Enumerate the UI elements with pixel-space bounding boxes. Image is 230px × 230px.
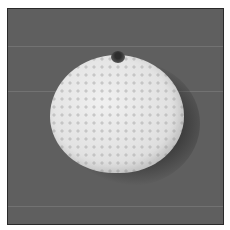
photo-frame	[7, 8, 224, 225]
object-notch	[111, 51, 125, 63]
textured-round-object	[50, 55, 184, 173]
scan-streak	[8, 206, 223, 207]
scan-streak	[8, 46, 223, 47]
